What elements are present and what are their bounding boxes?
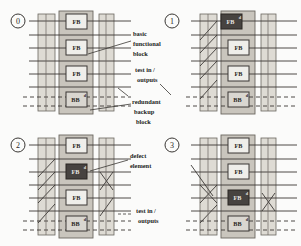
- annotation-basic-functional-block-line-0: basic: [133, 30, 147, 37]
- panel-3-id-label: 3: [170, 141, 174, 150]
- annotation-redundant-backup-block-line-0: redundant: [132, 98, 162, 105]
- panel-2-block-0-label: FB: [73, 142, 81, 149]
- panel-2-block-0[interactable]: FB: [66, 138, 87, 153]
- panel-2-id: 2: [11, 138, 25, 152]
- panel-2-block-1-label: FB: [72, 168, 80, 175]
- annotation-test-in-outputs-bottom-line-0: test in /: [136, 207, 156, 214]
- panel-0-block-2[interactable]: FB: [66, 66, 87, 81]
- panel-1-block-2[interactable]: FB: [228, 66, 249, 81]
- annotation-redundant-backup-block-leader-2: [118, 88, 128, 96]
- annotation-redundant-backup-block-line-1: backup: [134, 108, 155, 115]
- panel-3-block-2-label: FB: [234, 194, 242, 201]
- annotation-basic-functional-block-line-2: block: [133, 50, 148, 57]
- panel-0-id: 0: [11, 14, 25, 28]
- panel-0-block-3[interactable]: BB d: [66, 92, 87, 107]
- panel-3-block-1[interactable]: FB: [228, 164, 249, 179]
- panel-2-block-2[interactable]: FB: [66, 190, 87, 205]
- panel-1-id-label: 1: [170, 17, 174, 26]
- panel-3: FB FB FB d BB d 3: [165, 135, 297, 238]
- panel-2-block-2-label: FB: [73, 194, 81, 201]
- panel-0-right-routing-band: [99, 14, 114, 111]
- panel-3-block-3-label: BB: [233, 220, 241, 227]
- panel-3-block-0[interactable]: FB: [228, 138, 249, 153]
- panel-1-block-1-label: FB: [235, 44, 243, 51]
- panel-0-block-0-label: FB: [73, 18, 81, 25]
- annotation-defect-element-line-1: element: [130, 162, 152, 169]
- panel-3-block-3[interactable]: BB d: [228, 216, 249, 231]
- panel-3-block-0-label: FB: [235, 142, 243, 149]
- panel-2-id-label: 2: [16, 141, 20, 150]
- panel-2-block-1[interactable]: FB d: [66, 164, 87, 179]
- panel-1-block-0-label: FB: [227, 18, 235, 25]
- annotation-test-in-outputs-top-leader: [160, 84, 171, 95]
- panel-0-block-1[interactable]: FB: [66, 40, 87, 55]
- panel-1-block-3-label: BB: [233, 96, 241, 103]
- panel-0-block-0[interactable]: FB: [66, 14, 87, 29]
- panel-1-block-0[interactable]: FB d: [221, 14, 242, 29]
- panel-3-right-routing-band: [261, 138, 276, 235]
- panel-1: FB d FB FB BB d 1: [165, 11, 297, 114]
- panel-0-id-label: 0: [16, 17, 20, 26]
- annotation-defect-element-line-0: defect: [130, 152, 147, 159]
- panel-0-block-3-label: BB: [71, 96, 79, 103]
- panel-1-block-1[interactable]: FB: [228, 40, 249, 55]
- panel-2: FB FB d FB BB d 2: [11, 135, 131, 238]
- figure-canvas: FB FB FB BB d 0: [0, 0, 301, 246]
- annotation-redundant-backup-block-line-2: block: [136, 118, 151, 125]
- panel-0-left-routing-band: [38, 14, 55, 111]
- panel-0: FB FB FB BB d 0: [11, 11, 131, 114]
- annotation-test-in-outputs-top-line-1: outputs: [137, 76, 158, 83]
- panel-0-block-2-label: FB: [73, 70, 81, 77]
- panel-0-block-1-label: FB: [73, 44, 81, 51]
- panel-3-id: 3: [165, 138, 179, 152]
- panel-1-id: 1: [165, 14, 179, 28]
- panel-2-block-3-label: BB: [71, 220, 79, 227]
- panel-1-block-3[interactable]: BB d: [228, 92, 249, 107]
- annotation-test-in-outputs-top: test in / outputs: [135, 66, 171, 95]
- panel-2-block-3[interactable]: BB d: [66, 216, 87, 231]
- panel-2-right-routing-band: [99, 138, 114, 235]
- panel-1-right-routing-band: [261, 14, 276, 111]
- panel-3-block-1-label: FB: [235, 168, 243, 175]
- diagram-svg: FB FB FB BB d 0: [0, 0, 301, 246]
- annotation-test-in-outputs-top-line-0: test in /: [135, 66, 155, 73]
- annotation-basic-functional-block-line-1: functional: [133, 40, 161, 47]
- annotation-test-in-outputs-bottom-line-1: outputs: [138, 217, 159, 224]
- panel-1-block-2-label: FB: [235, 70, 243, 77]
- panel-3-block-2[interactable]: FB d: [228, 190, 249, 205]
